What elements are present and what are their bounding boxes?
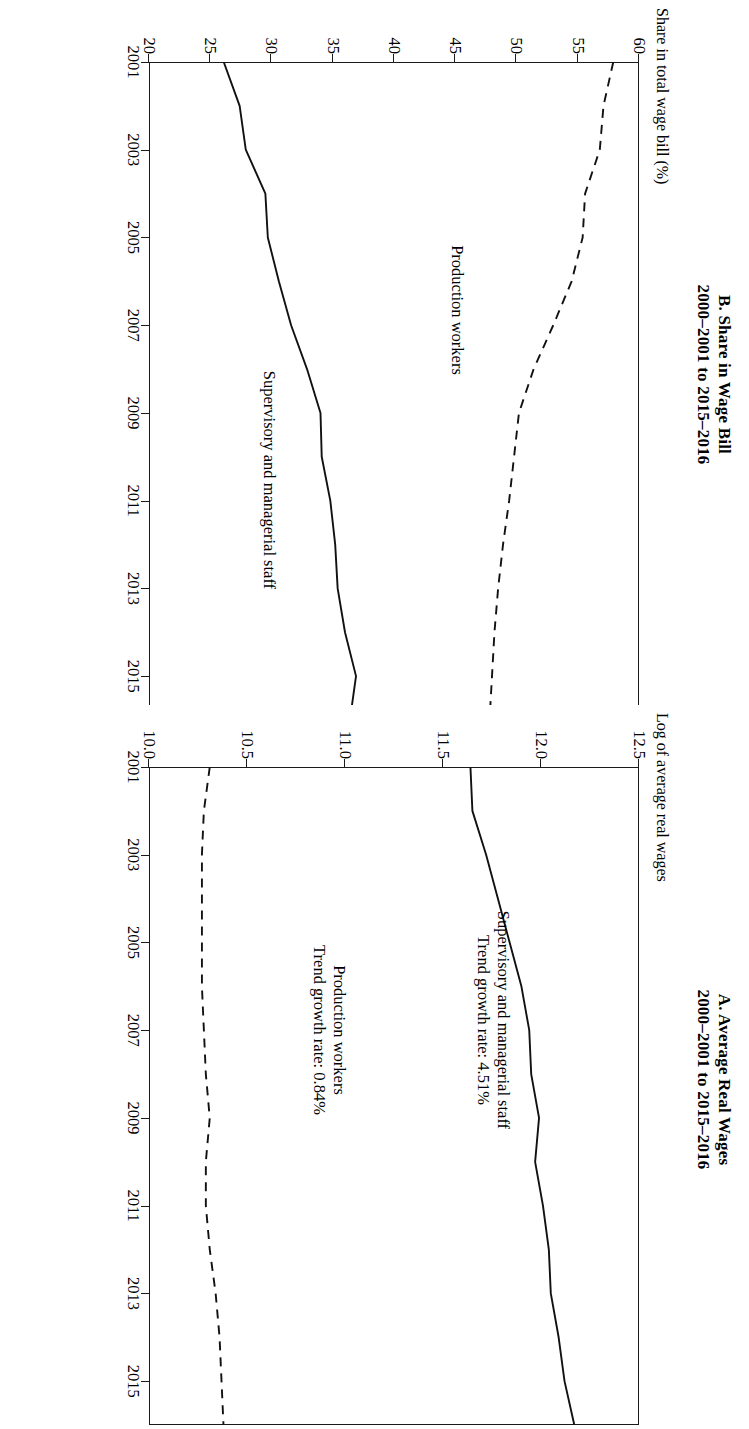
y-tick-mark — [638, 54, 639, 62]
panel-b-annotation-supervisory-staff: Supervisory and managerial staff — [259, 330, 279, 630]
x-tick-label: 2003 — [123, 120, 143, 180]
x-tick-label: 2011 — [123, 471, 143, 531]
x-tick-mark — [141, 588, 149, 589]
y-tick-label: 11.5 — [433, 707, 453, 759]
x-tick-mark — [141, 676, 149, 677]
x-tick-mark — [141, 1206, 149, 1207]
series-line-production-workers — [202, 767, 224, 1425]
y-tick-mark — [332, 54, 333, 62]
x-tick-mark — [141, 855, 149, 856]
panel-b-title-line1: B. Share in Wage Bill — [714, 0, 735, 749]
x-tick-label: 2009 — [123, 383, 143, 443]
y-tick-label: 25 — [200, 2, 220, 54]
x-tick-label: 2009 — [123, 1088, 143, 1148]
y-tick-mark — [344, 759, 345, 767]
x-tick-mark — [141, 1293, 149, 1294]
y-tick-mark — [148, 54, 149, 62]
y-tick-mark — [209, 54, 210, 62]
panel-a-title-line1: A. Average Real Wages — [714, 705, 735, 1429]
y-tick-label: 45 — [445, 2, 465, 54]
panel-a-plot-area — [149, 767, 639, 1425]
x-tick-label: 2015 — [123, 646, 143, 706]
x-tick-mark — [141, 237, 149, 238]
x-tick-mark — [141, 942, 149, 943]
y-tick-mark — [393, 54, 394, 62]
x-tick-label: 2005 — [123, 207, 143, 267]
panel-a-annotation-supervisory-staff: Supervisory and managerial staff Trend g… — [473, 855, 513, 1185]
x-tick-label: 2015 — [123, 1351, 143, 1411]
x-tick-label: 2013 — [123, 558, 143, 618]
y-tick-label: 12.5 — [629, 707, 649, 759]
y-tick-label: 50 — [507, 2, 527, 54]
panel-b-title-line2: 2000–2001 to 2015–2016 — [693, 0, 714, 749]
x-tick-mark — [141, 501, 149, 502]
panel-a-title-line2: 2000–2001 to 2015–2016 — [693, 705, 714, 1429]
y-tick-mark — [148, 759, 149, 767]
x-tick-label: 2011 — [123, 1176, 143, 1236]
x-tick-label: 2005 — [123, 912, 143, 972]
panel-a-y-axis-label: Log of average real wages — [653, 713, 671, 882]
y-tick-mark — [540, 759, 541, 767]
x-tick-label: 2007 — [123, 1000, 143, 1060]
x-tick-mark — [141, 1381, 149, 1382]
y-tick-mark — [516, 54, 517, 62]
x-tick-label: 2001 — [123, 32, 143, 92]
y-tick-mark — [577, 54, 578, 62]
panel-b-y-axis-label: Share in total wage bill (%) — [653, 8, 671, 184]
series-line-supervisory-and-managerial-staff — [224, 62, 356, 720]
series-line-production-workers — [490, 62, 614, 720]
x-tick-label: 2007 — [123, 295, 143, 355]
y-tick-mark — [271, 54, 272, 62]
panel-a-container: A. Average Real Wages 2000–2001 to 2015–… — [44, 705, 749, 1429]
x-tick-label: 2001 — [123, 737, 143, 797]
y-tick-mark — [454, 54, 455, 62]
y-tick-mark — [442, 759, 443, 767]
x-tick-mark — [141, 150, 149, 151]
y-tick-label: 10.5 — [237, 707, 257, 759]
panel-b-container: B. Share in Wage Bill 2000–2001 to 2015–… — [44, 0, 749, 749]
x-tick-mark — [141, 1030, 149, 1031]
x-tick-label: 2013 — [123, 1263, 143, 1323]
x-tick-label: 2003 — [123, 825, 143, 885]
panel-a-annotation-production-workers: Production workers Trend growth rate: 0.… — [309, 905, 349, 1155]
y-tick-label: 60 — [629, 2, 649, 54]
y-tick-mark — [246, 759, 247, 767]
x-tick-mark — [141, 1118, 149, 1119]
x-tick-mark — [141, 413, 149, 414]
y-tick-label: 35 — [323, 2, 343, 54]
y-tick-label: 12.0 — [531, 707, 551, 759]
panel-b-plot-area — [149, 62, 639, 720]
panel-a: A. Average Real Wages 2000–2001 to 2015–… — [44, 705, 749, 1429]
panel-a-title: A. Average Real Wages 2000–2001 to 2015–… — [693, 705, 735, 1429]
y-tick-mark — [638, 759, 639, 767]
y-tick-label: 30 — [262, 2, 282, 54]
x-tick-mark — [141, 62, 149, 63]
panel-b: B. Share in Wage Bill 2000–2001 to 2015–… — [44, 0, 749, 749]
panel-b-annotation-production-workers: Production workers — [447, 200, 467, 420]
y-tick-label: 11.0 — [335, 707, 355, 759]
x-tick-mark — [141, 767, 149, 768]
x-tick-mark — [141, 325, 149, 326]
y-tick-label: 55 — [568, 2, 588, 54]
panel-b-title: B. Share in Wage Bill 2000–2001 to 2015–… — [693, 0, 735, 749]
y-tick-label: 40 — [384, 2, 404, 54]
